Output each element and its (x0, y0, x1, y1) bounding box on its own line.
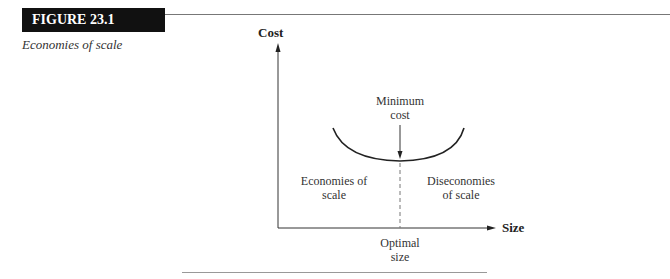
x-axis-label: Size (502, 220, 525, 235)
optimal-size-label-1: Optimal (380, 236, 420, 250)
bottom-rule (182, 272, 487, 273)
chart: Cost Size Minimum cost Economies of scal… (0, 0, 670, 279)
economies-label-2: scale (322, 188, 346, 202)
min-cost-label-2: cost (390, 108, 410, 122)
arrow-down-icon (398, 151, 403, 159)
cost-curve (333, 128, 464, 161)
economies-label-1: Economies of (301, 174, 367, 188)
optimal-size-label-2: size (391, 250, 410, 264)
x-axis-arrow-icon (487, 226, 496, 231)
diseconomies-label-1: Diseconomies (427, 174, 495, 188)
y-axis-arrow-icon (276, 43, 281, 52)
diseconomies-label-2: of scale (443, 188, 480, 202)
y-axis-label: Cost (258, 25, 284, 40)
min-cost-label-1: Minimum (376, 94, 425, 108)
